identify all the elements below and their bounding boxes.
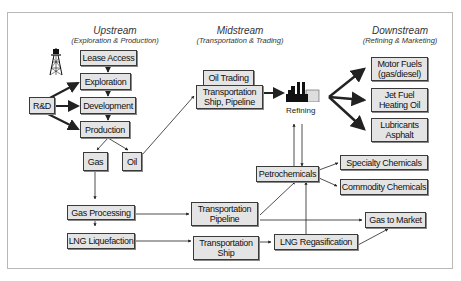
node-lubricants: Lubricants Asphalt bbox=[371, 118, 428, 142]
node-label: Transportation Pipeline bbox=[192, 204, 257, 224]
node-production: Production bbox=[80, 121, 130, 138]
node-label: LNG Regasification bbox=[280, 237, 352, 247]
node-oil-trading: Oil Trading bbox=[203, 70, 254, 86]
node-gas: Gas bbox=[83, 152, 108, 171]
node-rnd: R&D bbox=[29, 97, 55, 114]
node-petrochemicals: Petrochemicals bbox=[256, 166, 319, 182]
node-label: Lease Access bbox=[83, 53, 135, 63]
node-label: Transportation Ship bbox=[194, 238, 258, 258]
node-jet-fuel: Jet Fuel Heating Oil bbox=[371, 88, 428, 112]
node-label: Gas Processing bbox=[71, 208, 130, 218]
node-label: Commodity Chemicals bbox=[342, 182, 426, 192]
node-transport-ship: Transportation Ship bbox=[193, 236, 259, 260]
node-label: Oil bbox=[127, 157, 137, 167]
node-label: Petrochemicals bbox=[259, 169, 316, 179]
node-transport-ship-pipeline: Transportation Ship, Pipeline bbox=[196, 85, 263, 109]
oil-derrick-icon bbox=[48, 48, 64, 76]
node-label: Jet Fuel Heating Oil bbox=[372, 90, 427, 110]
node-label: R&D bbox=[33, 101, 51, 111]
node-label: Oil Trading bbox=[208, 73, 248, 83]
node-development: Development bbox=[80, 97, 136, 114]
node-lng-liquefaction: LNG Liquefaction bbox=[67, 233, 135, 249]
node-label: Gas to Market bbox=[369, 215, 422, 225]
node-specialty-chemicals: Specialty Chemicals bbox=[340, 155, 428, 170]
node-label: Transportation Ship, Pipeline bbox=[197, 87, 262, 107]
node-label: LNG Liquefaction bbox=[69, 236, 134, 246]
node-label: Gas bbox=[88, 157, 104, 167]
node-label: Exploration bbox=[85, 77, 127, 87]
node-label: Lubricants Asphalt bbox=[372, 120, 427, 140]
refinery-icon bbox=[286, 82, 320, 102]
node-lng-regasification: LNG Regasification bbox=[274, 234, 358, 250]
node-label: Production bbox=[85, 125, 125, 135]
node-commodity-chemicals: Commodity Chemicals bbox=[340, 179, 428, 195]
node-gas-to-market: Gas to Market bbox=[365, 212, 426, 228]
node-lease-access: Lease Access bbox=[80, 50, 137, 66]
node-oil: Oil bbox=[122, 152, 142, 171]
node-label: Specialty Chemicals bbox=[346, 158, 421, 168]
node-refining: Refining bbox=[286, 106, 315, 115]
node-gas-processing: Gas Processing bbox=[67, 205, 135, 220]
node-transport-pipeline: Transportation Pipeline bbox=[191, 202, 258, 226]
node-label: Development bbox=[83, 101, 133, 111]
node-exploration: Exploration bbox=[80, 73, 131, 90]
node-label: Motor Fuels (gas/diesel) bbox=[372, 59, 427, 79]
node-motor-fuels: Motor Fuels (gas/diesel) bbox=[371, 57, 428, 81]
